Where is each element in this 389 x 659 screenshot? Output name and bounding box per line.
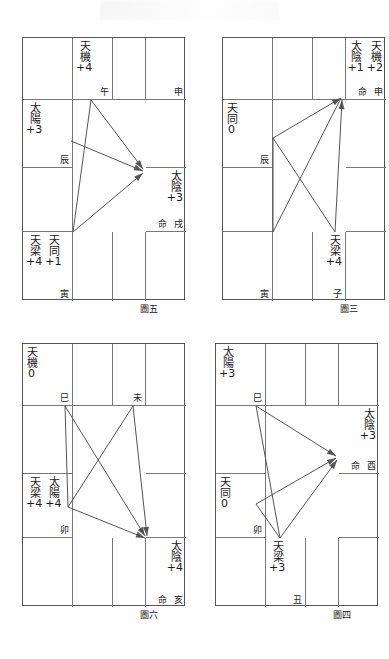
star-group: 太陽+3 (219, 346, 262, 380)
star-group: 天梁+4天同+1 (26, 234, 69, 268)
star-entry: 天機+4 (76, 40, 92, 74)
star-brightness: +4 (167, 562, 183, 574)
palace-cell[interactable] (306, 538, 339, 607)
palace-cell[interactable] (73, 344, 113, 406)
palace-footer: 子 (316, 288, 342, 300)
palace-cell[interactable]: 天同0卯 (216, 474, 266, 538)
palace-footer: 未 (116, 392, 142, 404)
star-entry: 天梁+3 (269, 540, 285, 574)
star-name: 天機 (369, 40, 380, 62)
palace-cell[interactable]: 太陰+1天機+2命申 (346, 38, 386, 100)
star-brightness: +4 (45, 498, 61, 510)
palace-cell[interactable]: 天梁+4子 (313, 232, 346, 301)
star-brightness: +3 (269, 562, 285, 574)
star-entry: 天梁+4 (26, 476, 42, 510)
palace-cell[interactable] (266, 344, 306, 406)
palace-cell[interactable]: 天梁+4天同+1寅 (23, 232, 73, 301)
palace-cell[interactable]: 天梁+3丑 (266, 538, 306, 607)
palace-cell[interactable]: 申 (146, 38, 186, 100)
palace-cell[interactable]: 太陰+3命酉 (339, 406, 379, 474)
palace-cell[interactable] (146, 474, 186, 538)
palace-cell[interactable] (113, 538, 146, 607)
star-brightness: +3 (26, 124, 42, 136)
palace-cell[interactable]: 天機+4午 (73, 38, 113, 100)
palace-cell[interactable]: 天同0辰 (223, 100, 273, 168)
star-entry: 太陽+3 (219, 346, 235, 380)
palace-cell[interactable]: 天梁+4太陽+4卯 (23, 474, 73, 538)
star-group: 太陰+3 (360, 408, 376, 442)
palace-cell[interactable]: 太陰+4命亥 (146, 538, 186, 607)
star-entry: 太陽+4 (45, 476, 61, 510)
palace-cell[interactable] (339, 474, 379, 538)
palace-cell[interactable] (306, 344, 339, 406)
star-entry: 太陰+3 (167, 170, 183, 204)
chart-tu-liu: 天機0巳未天梁+4太陽+4卯太陰+4命亥圖六 (22, 343, 187, 626)
palace-footer: 命申 (349, 86, 383, 98)
palace-cell[interactable]: 天機0巳 (23, 344, 73, 406)
palace-cell[interactable] (346, 168, 386, 232)
palace-cell[interactable] (23, 406, 73, 474)
palace-cell[interactable] (73, 538, 113, 607)
palace-cell[interactable] (146, 232, 186, 301)
palace-cell[interactable]: 太陰+3命戌 (146, 168, 186, 232)
palace-cell[interactable] (146, 100, 186, 168)
palace-cell[interactable] (146, 406, 186, 474)
star-brightness: +3 (167, 192, 183, 204)
palace-cell[interactable] (273, 38, 313, 100)
earthly-branch-label: 戌 (174, 217, 183, 230)
star-brightness: +1 (348, 62, 364, 74)
palace-footer: 寅 (226, 288, 269, 300)
star-name: 太陽 (29, 102, 40, 124)
palace-cell[interactable]: 太陽+3辰 (23, 100, 73, 168)
chart-cells: 天機0巳未天梁+4太陽+4卯太陰+4命亥 (23, 344, 184, 605)
palace-cell[interactable] (346, 232, 386, 301)
palace-cell[interactable] (113, 232, 146, 301)
palace-cell[interactable] (339, 344, 379, 406)
star-name: 太陰 (169, 170, 180, 192)
star-group: 太陽+3 (26, 102, 69, 136)
chart-cells: 太陰+1天機+2命申天同0辰寅天梁+4子 (223, 38, 384, 299)
palace-cell[interactable]: 寅 (223, 232, 273, 301)
chart-grid: 天機0巳未天梁+4太陽+4卯太陰+4命亥 (22, 343, 185, 606)
palace-cell[interactable] (273, 232, 313, 301)
palace-cell[interactable] (216, 406, 266, 474)
earthly-branch-label: 卯 (60, 523, 69, 536)
palace-cell[interactable] (113, 38, 146, 100)
palace-cell[interactable] (223, 38, 273, 100)
star-brightness: +4 (76, 62, 92, 74)
life-palace-marker: 命 (351, 459, 360, 472)
palace-cell[interactable] (23, 38, 73, 100)
palace-cell[interactable] (23, 168, 73, 232)
chart-cells: 太陽+3巳太陰+3命酉天同0卯天梁+3丑 (216, 344, 377, 605)
palace-cell[interactable] (346, 100, 386, 168)
star-group: 太陰+4 (167, 540, 183, 574)
life-palace-marker: 命 (158, 593, 167, 606)
palace-cell[interactable] (146, 344, 186, 406)
star-entry: 天同0 (219, 476, 230, 510)
earthly-branch-label: 亥 (174, 593, 183, 606)
palace-cell[interactable] (339, 538, 379, 607)
palace-cell[interactable] (23, 538, 73, 607)
palace-footer: 巳 (26, 392, 69, 404)
palace-cell[interactable]: 未 (113, 344, 146, 406)
star-brightness: +3 (360, 430, 376, 442)
palace-cell[interactable] (313, 38, 346, 100)
star-group: 太陰+3 (167, 170, 183, 204)
star-name: 天機 (26, 346, 37, 368)
palace-footer: 命酉 (342, 460, 376, 472)
palace-cell[interactable] (73, 232, 113, 301)
star-brightness: +1 (45, 256, 61, 268)
palace-cell[interactable] (216, 538, 266, 607)
star-entry: 天機0 (26, 346, 37, 380)
palace-footer: 巳 (219, 392, 262, 404)
earthly-branch-label: 卯 (253, 523, 262, 536)
star-entry: 太陰+3 (360, 408, 376, 442)
palace-cell[interactable] (223, 168, 273, 232)
star-brightness: +4 (326, 256, 342, 268)
palace-cell[interactable]: 太陽+3巳 (216, 344, 266, 406)
chart-caption: 圖三 (340, 302, 358, 315)
palace-footer: 命戌 (149, 218, 183, 230)
earthly-branch-label: 子 (333, 287, 342, 300)
life-palace-marker: 命 (158, 217, 167, 230)
page-root: 天機+4午申太陽+3辰太陰+3命戌天梁+4天同+1寅圖五太陰+1天機+2命申天同… (0, 0, 389, 659)
